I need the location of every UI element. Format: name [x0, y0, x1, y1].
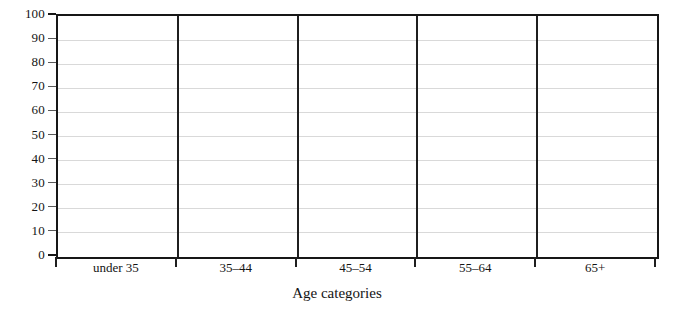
y-axis-tick-label: 50	[5, 128, 45, 141]
y-axis-tick	[48, 38, 56, 39]
x-axis-title: Age categories	[0, 284, 674, 302]
plot-area	[56, 14, 659, 259]
gridline	[58, 88, 657, 89]
y-axis-tick	[48, 62, 56, 63]
y-axis-tick	[48, 86, 56, 87]
y-axis-tick-label: 40	[5, 152, 45, 165]
x-axis-category-label: 65+	[535, 261, 655, 275]
gridline	[58, 112, 657, 113]
y-axis-tick	[48, 110, 56, 111]
gridline	[58, 40, 657, 41]
y-axis-tick	[48, 206, 56, 207]
y-axis-tick	[48, 230, 56, 231]
y-axis-tick	[48, 134, 56, 135]
category-separator	[536, 16, 538, 257]
gridline	[58, 184, 657, 185]
y-axis-tick-label: 30	[5, 176, 45, 189]
y-axis-tick	[48, 254, 56, 256]
y-axis-tick	[48, 182, 56, 183]
y-axis-tick-label: 60	[5, 103, 45, 116]
gridline	[58, 208, 657, 209]
category-separator	[297, 16, 299, 257]
gridline	[58, 136, 657, 137]
y-axis-tick-label: 90	[5, 31, 45, 44]
y-axis-tick-label: 80	[5, 55, 45, 68]
y-axis-tick-label: 0	[5, 248, 45, 261]
x-axis-category-label: 55–64	[415, 261, 535, 275]
y-axis-tick-label: 10	[5, 224, 45, 237]
category-separator	[177, 16, 179, 257]
y-axis-tick-label: 20	[5, 200, 45, 213]
gridline	[58, 64, 657, 65]
x-axis-category-label: under 35	[56, 261, 176, 275]
y-axis-tick-label: 100	[5, 7, 45, 20]
x-axis-category-label: 35–44	[176, 261, 296, 275]
y-axis-tick	[48, 13, 56, 15]
y-axis-tick-label: 70	[5, 79, 45, 92]
category-separator	[416, 16, 418, 257]
chart-container: 0102030405060708090100 under 3535–4445–5…	[0, 0, 674, 312]
gridline	[58, 160, 657, 161]
y-axis-tick	[48, 158, 56, 159]
x-axis-category-label: 45–54	[296, 261, 416, 275]
gridline	[58, 232, 657, 233]
